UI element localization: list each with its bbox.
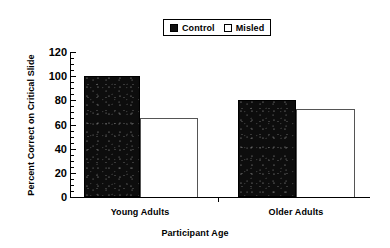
- y-tick-minor: [71, 167, 74, 168]
- y-tick-minor: [71, 131, 74, 132]
- y-tick-minor: [71, 106, 74, 107]
- y-tick-minor: [71, 94, 74, 95]
- y-tick-label-0: 0: [27, 191, 67, 203]
- x-axis-title: Participant Age: [0, 228, 390, 238]
- y-tick-minor: [71, 118, 74, 119]
- bar-control-older-adults: [238, 100, 296, 197]
- y-tick-minor: [71, 112, 74, 113]
- y-tick-minor: [71, 185, 74, 186]
- legend-label-control: Control: [182, 23, 215, 33]
- x-tick-category-separator: [218, 198, 219, 202]
- y-tick-minor: [71, 191, 74, 192]
- y-tick-minor: [71, 82, 74, 83]
- bar-misled-older-adults: [296, 109, 355, 197]
- y-tick-major-120: [71, 52, 76, 53]
- y-tick-major-20: [71, 173, 76, 174]
- y-tick-minor: [71, 161, 74, 162]
- legend-entry-misled: Misled: [224, 23, 265, 33]
- y-tick-major-100: [71, 76, 76, 77]
- bar-misled-young-adults: [140, 118, 198, 197]
- y-tick-label-40: 40: [27, 143, 67, 155]
- y-tick-label-60: 60: [27, 119, 67, 131]
- y-tick-label-80: 80: [27, 94, 67, 106]
- x-axis-line: [70, 197, 370, 198]
- chart-legend: Control Misled: [163, 19, 271, 36]
- legend-entry-control: Control: [170, 23, 215, 33]
- y-tick-major-0: [71, 197, 76, 198]
- x-tick-label-older-adults: Older Adults: [236, 207, 356, 217]
- y-tick-major-80: [71, 100, 76, 101]
- y-tick-minor: [71, 155, 74, 156]
- y-tick-label-120: 120: [27, 46, 67, 58]
- bar-chart: Control Misled Percent Correct on Critic…: [0, 0, 390, 248]
- bar-control-young-adults: [84, 76, 140, 197]
- y-tick-major-40: [71, 149, 76, 150]
- y-tick-minor: [71, 64, 74, 65]
- y-tick-label-100: 100: [27, 70, 67, 82]
- y-tick-label-20: 20: [27, 167, 67, 179]
- y-tick-minor: [71, 137, 74, 138]
- legend-label-misled: Misled: [236, 23, 265, 33]
- legend-swatch-misled-icon: [224, 24, 232, 32]
- y-tick-minor: [71, 179, 74, 180]
- y-tick-minor: [71, 58, 74, 59]
- plot-area: 0 20 40 60 80 100 120: [70, 52, 370, 197]
- legend-swatch-control-icon: [170, 24, 178, 32]
- y-tick-minor: [71, 88, 74, 89]
- y-tick-minor: [71, 143, 74, 144]
- y-tick-major-60: [71, 125, 76, 126]
- x-tick-label-young-adults: Young Adults: [80, 207, 200, 217]
- y-tick-minor: [71, 70, 74, 71]
